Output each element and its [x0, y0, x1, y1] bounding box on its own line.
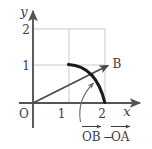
caption-term-1: OB [82, 130, 101, 144]
y-tick-label-1: 1 [22, 59, 30, 73]
y-axis-label: y [19, 4, 28, 19]
point-label-b: B [113, 57, 122, 71]
caption-expression: OB − OA [82, 127, 130, 145]
coordinate-plane-svg: 1 2 1 2 O x y B OB − OA [0, 0, 152, 149]
origin-label: O [19, 107, 29, 121]
vector-diagram-figure: 1 2 1 2 O x y B OB − OA [0, 0, 152, 149]
y-tick-label-2: 2 [22, 23, 30, 37]
x-axis-label: x [123, 104, 131, 119]
caption-term-2: OA [111, 130, 130, 144]
x-tick-label-2: 2 [98, 107, 106, 121]
x-tick-label-1: 1 [58, 107, 66, 121]
